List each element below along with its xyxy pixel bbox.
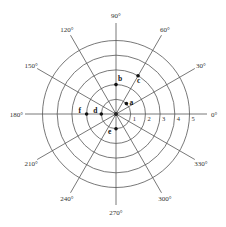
angle-label-330: 330°	[194, 160, 208, 168]
point-e	[114, 127, 118, 131]
radial-line-150	[37, 69, 116, 115]
point-b	[114, 83, 118, 87]
ring-label-1: 1	[133, 115, 136, 122]
angle-label-240: 240°	[60, 195, 74, 203]
angle-labels: 0°30°60°90°120°150°180°210°240°270°300°3…	[10, 12, 218, 217]
radial-line-30	[116, 69, 195, 115]
point-d	[100, 112, 104, 116]
angle-label-210: 210°	[24, 160, 38, 168]
point-label-b: b	[118, 74, 122, 83]
origin-point	[114, 112, 118, 116]
angle-label-150: 150°	[24, 62, 38, 70]
radial-line-210	[37, 114, 116, 160]
angle-label-30: 30°	[196, 62, 206, 70]
radial-line-300	[116, 114, 162, 193]
point-a	[125, 102, 129, 106]
angle-label-300: 300°	[158, 195, 172, 203]
angle-label-270: 270°	[109, 209, 123, 217]
angle-label-90: 90°	[111, 12, 121, 20]
angle-label-60: 60°	[160, 26, 170, 34]
radial-line-120	[71, 35, 117, 114]
polar-coordinate-grid: 0°30°60°90°120°150°180°210°240°270°300°3…	[0, 0, 226, 227]
ring-label-4: 4	[177, 115, 181, 122]
ring-label-3: 3	[162, 115, 165, 122]
point-f	[85, 112, 89, 116]
ring-label-2: 2	[147, 115, 150, 122]
point-label-a: a	[129, 98, 133, 107]
angle-label-120: 120°	[60, 26, 74, 34]
ring-labels: 12345	[133, 115, 195, 122]
angle-label-0: 0°	[211, 111, 218, 119]
angle-label-180: 180°	[10, 111, 24, 119]
ring-label-5: 5	[192, 115, 195, 122]
radial-line-330	[116, 114, 195, 160]
